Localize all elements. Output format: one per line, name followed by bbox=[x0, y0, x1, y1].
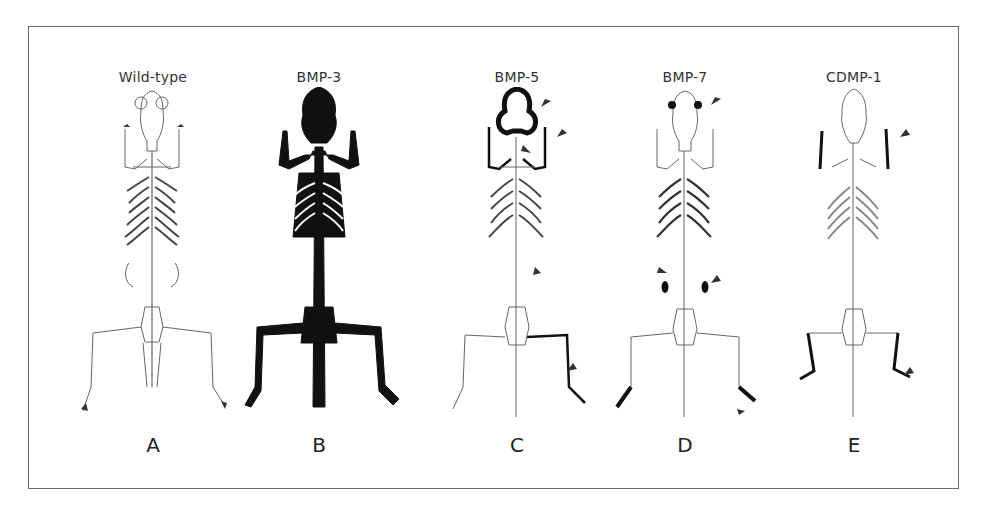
panel-title: Wild-type bbox=[63, 69, 243, 85]
skeleton-bmp3 bbox=[229, 87, 409, 427]
panel-a-wild-type: Wild-type bbox=[63, 27, 243, 490]
panel-e-cdmp1: CDMP-1 bbox=[764, 27, 944, 490]
panel-title: BMP-5 bbox=[427, 69, 607, 85]
panel-title: BMP-3 bbox=[229, 69, 409, 85]
figure-frame: Wild-type bbox=[28, 26, 959, 489]
skeleton-wild-type bbox=[63, 87, 243, 427]
panel-letter: C bbox=[427, 433, 607, 457]
panel-b-bmp3: BMP-3 B bbox=[229, 27, 409, 490]
arrowhead-icons bbox=[521, 99, 577, 371]
panel-d-bmp7: BMP-7 bbox=[595, 27, 775, 490]
skeleton-bmp5 bbox=[427, 87, 607, 427]
panel-title: CDMP-1 bbox=[764, 69, 944, 85]
skeleton-cdmp1 bbox=[764, 87, 944, 427]
panel-letter: B bbox=[229, 433, 409, 457]
skeleton-bmp7 bbox=[595, 87, 775, 427]
panel-letter: A bbox=[63, 433, 243, 457]
arrowhead-icons bbox=[900, 129, 914, 375]
panel-letter: E bbox=[764, 433, 944, 457]
arrowhead-icons bbox=[657, 97, 745, 415]
panel-title: BMP-7 bbox=[595, 69, 775, 85]
panel-c-bmp5: BMP-5 bbox=[427, 27, 607, 490]
panel-letter: D bbox=[595, 433, 775, 457]
